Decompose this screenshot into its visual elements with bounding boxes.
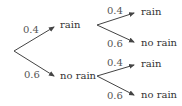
outcome-label: no rain	[60, 71, 96, 81]
outcome-label: no rain	[141, 38, 177, 48]
probability-label: 0.6	[107, 39, 123, 49]
probability-label: 0.4	[107, 58, 123, 68]
outcome-label: rain	[141, 7, 161, 17]
probability-label: 0.6	[107, 91, 123, 101]
outcome-label: no rain	[141, 90, 177, 100]
probability-label: 0.4	[107, 6, 123, 16]
outcome-label: rain	[60, 20, 80, 30]
outcome-label: rain	[141, 59, 161, 69]
probability-label: 0.4	[23, 25, 39, 35]
probability-label: 0.6	[24, 70, 40, 80]
